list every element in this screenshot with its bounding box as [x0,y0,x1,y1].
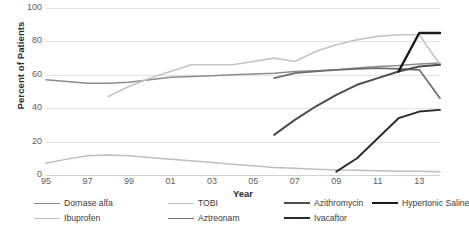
plot-area [46,8,440,175]
y-axis-tick: 80 [8,35,42,45]
x-axis-tick: 01 [165,176,175,186]
x-axis-tick: 13 [414,176,424,186]
x-axis-tick: 09 [331,176,341,186]
legend-item[interactable]: Ibuprofen [34,214,100,223]
legend-label: Dornase alfa [64,199,113,208]
legend-swatch-icon [168,218,194,219]
y-axis-tick: 60 [8,69,42,79]
x-axis-tick: 11 [373,176,382,186]
x-axis-tick: 03 [207,176,217,186]
legend-swatch-icon [34,218,60,219]
legend-label: Ibuprofen [64,214,100,223]
x-axis-tick: 97 [82,176,92,186]
chart-legend: Dornase alfaTOBIAzithromycinHypertonic S… [34,199,438,229]
x-axis-tick: 99 [124,176,134,186]
legend-label: Hypertonic Saline [402,199,469,208]
x-axis-tick: 07 [290,176,300,186]
legend-swatch-icon [284,202,310,204]
legend-item[interactable]: Dornase alfa [34,199,113,208]
x-axis-tick: 95 [41,176,51,186]
y-axis-tick: 20 [8,136,42,146]
legend-swatch-icon [284,217,310,219]
legend-item[interactable]: Ivacaftor [284,214,347,223]
series-line [274,65,440,135]
legend-swatch-icon [34,203,60,204]
legend-swatch-icon [168,203,194,204]
y-axis-tick: 0 [8,169,42,179]
legend-item[interactable]: TOBI [168,199,218,208]
series-lines [46,8,440,175]
series-line [274,68,440,98]
legend-label: Ivacaftor [314,214,347,223]
legend-label: Aztreonam [198,214,240,223]
legend-swatch-icon [372,202,398,204]
y-axis-tick-labels: 020406080100 [0,8,42,175]
series-line [46,155,440,172]
legend-item[interactable]: Azithromycin [284,199,363,208]
x-axis-tick: 05 [248,176,258,186]
y-axis-tick: 100 [8,2,42,12]
legend-label: Azithromycin [314,199,363,208]
legend-item[interactable]: Aztreonam [168,214,240,223]
legend-item[interactable]: Hypertonic Saline [372,199,469,208]
legend-label: TOBI [198,199,218,208]
series-line [46,63,440,83]
y-axis-tick: 40 [8,102,42,112]
series-line [336,110,440,172]
